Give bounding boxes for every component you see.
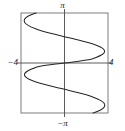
plot-canvas	[0, 0, 125, 131]
x-axis-label-4: 4	[109, 58, 123, 67]
y-axis-label-negative-pi: −π	[0, 119, 125, 128]
x-axis-label-negative-4: −4	[2, 58, 18, 67]
y-axis-label-pi: π	[0, 1, 125, 10]
graph-figure: π −π −4 4	[0, 0, 125, 131]
